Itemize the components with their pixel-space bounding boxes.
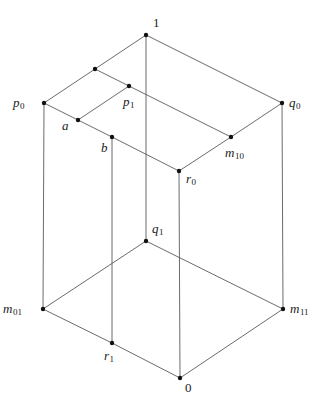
label-m10: m10 — [225, 145, 244, 161]
node-p1 — [127, 84, 131, 88]
node-p0 — [42, 101, 46, 105]
label-m01: m01 — [3, 301, 22, 317]
edge-q0-m10 — [231, 103, 282, 137]
node-q0 — [280, 101, 284, 105]
node-r0 — [177, 169, 181, 173]
node-q1 — [144, 239, 148, 243]
node-b — [110, 135, 114, 139]
node-m01 — [41, 307, 45, 311]
edge-p1-m10 — [129, 86, 231, 137]
label-r0: r0 — [186, 171, 197, 187]
edge-u-p1 — [95, 69, 129, 86]
edge-p1-a — [78, 86, 129, 120]
labels-group: 1p0p1q0abm10r0q1m01m11r10 — [3, 15, 309, 395]
edge-q0-m11 — [282, 103, 283, 309]
label-top: 1 — [153, 15, 160, 30]
edge-q1-m11 — [146, 241, 283, 309]
label-q1: q1 — [152, 221, 164, 237]
edge-p0-m01 — [43, 103, 44, 309]
edges-group — [43, 35, 283, 378]
edge-q1-m01 — [43, 241, 146, 309]
label-p0: p0 — [12, 95, 25, 111]
edge-u-p0 — [44, 69, 95, 103]
label-a: a — [62, 118, 69, 133]
node-bottom — [178, 376, 182, 380]
edge-top-u — [95, 35, 146, 69]
edge-p0-a — [44, 103, 78, 120]
label-q0: q0 — [289, 95, 301, 111]
edge-m10-r0 — [179, 137, 231, 171]
node-m10 — [229, 135, 233, 139]
edge-r0-bottom — [179, 171, 180, 378]
label-bottom: 0 — [185, 380, 192, 395]
label-m11: m11 — [290, 301, 309, 317]
node-u — [93, 67, 97, 71]
nodes-group — [41, 33, 285, 380]
edge-top-q0 — [146, 35, 282, 103]
label-p1: p1 — [122, 94, 135, 110]
edge-m11-bottom — [180, 309, 283, 378]
node-a — [76, 118, 80, 122]
node-top — [144, 33, 148, 37]
node-r1 — [110, 341, 114, 345]
label-b: b — [101, 140, 108, 155]
label-r1: r1 — [104, 348, 114, 364]
edge-r1-bottom — [112, 343, 180, 378]
edge-b-r0 — [112, 137, 179, 171]
node-m11 — [281, 307, 285, 311]
lattice-diagram: 1p0p1q0abm10r0q1m01m11r10 — [0, 0, 325, 412]
edge-m01-r1 — [43, 309, 112, 343]
edge-a-b — [78, 120, 112, 137]
